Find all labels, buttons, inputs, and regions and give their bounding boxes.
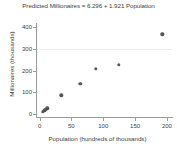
data-point (45, 107, 48, 110)
data-point (59, 94, 62, 97)
data-point (79, 82, 82, 85)
x-tick-label: 50 (61, 123, 81, 130)
x-axis-label: Population (hundreds of thousands) (20, 135, 175, 143)
y-axis-line (36, 23, 37, 118)
scatter-plot-figure: Predicted Millionaires = 6.296 + 1.921 P… (0, 0, 177, 148)
x-tick-label: 100 (93, 123, 113, 130)
x-tick-mark (167, 118, 168, 121)
x-tick-label: 150 (125, 123, 145, 130)
y-tick-mark (33, 27, 36, 28)
y-tick-mark (33, 92, 36, 93)
x-tick-label: 0 (30, 123, 50, 130)
chart-title: Predicted Millionaires = 6.296 + 1.921 P… (0, 2, 177, 10)
x-tick-mark (135, 118, 136, 121)
x-tick-mark (103, 118, 104, 121)
y-tick-mark (33, 71, 36, 72)
x-axis-line (36, 117, 173, 118)
x-tick-mark (71, 118, 72, 121)
data-points-layer (37, 25, 172, 117)
data-point (94, 67, 97, 70)
data-point (161, 32, 164, 35)
y-axis-label: Millionaires (thousands) (8, 14, 16, 114)
y-tick-mark (33, 49, 36, 50)
x-tick-mark (40, 118, 41, 121)
y-tick-mark (33, 114, 36, 115)
data-point (117, 63, 120, 66)
x-tick-label: 200 (157, 123, 177, 130)
plot-area (37, 25, 172, 117)
